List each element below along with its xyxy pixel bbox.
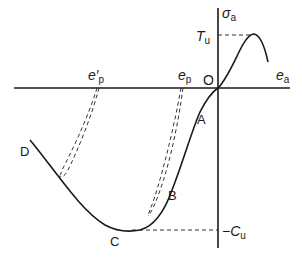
ep-prime-label: e′p <box>88 67 104 85</box>
x-axis-label: ea <box>276 67 290 85</box>
point-d-label: D <box>20 144 29 159</box>
loop-ep-outer <box>148 88 183 216</box>
tu-label: Tu <box>196 28 210 46</box>
main-stress-curve <box>30 34 268 231</box>
ep-label: ep <box>178 67 192 85</box>
stress-strain-diagram: σa ea O Tu −Cu e′p ep A B C D <box>0 0 302 257</box>
origin-label: O <box>203 72 214 88</box>
y-axis-label: σa <box>222 5 236 23</box>
point-b-label: B <box>168 188 177 203</box>
cu-label: −Cu <box>222 223 246 241</box>
loop-eprime-inner <box>58 88 97 177</box>
point-c-label: C <box>110 234 119 249</box>
point-a-label: A <box>197 112 206 127</box>
